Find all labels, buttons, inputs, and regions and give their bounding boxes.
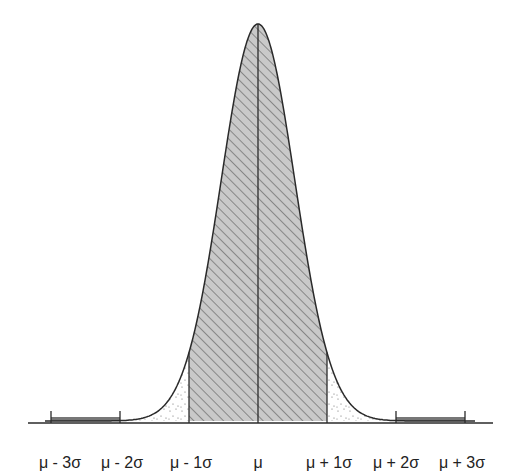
label-mu-plus-1-sigma: μ + 1σ xyxy=(306,454,352,472)
label-mu-minus-1-sigma: μ - 1σ xyxy=(170,454,212,472)
stippled-region-right xyxy=(327,353,396,422)
label-mu: μ xyxy=(253,454,262,472)
sigma-lines xyxy=(51,24,465,423)
label-mu-plus-3-sigma: μ + 3σ xyxy=(439,454,485,472)
label-mu-minus-3-sigma: μ - 3σ xyxy=(39,454,81,472)
label-mu-minus-2-sigma: μ - 2σ xyxy=(101,454,143,472)
normal-distribution-diagram xyxy=(0,0,516,476)
stippled-region-left xyxy=(120,353,189,422)
label-mu-plus-2-sigma: μ + 2σ xyxy=(373,454,419,472)
